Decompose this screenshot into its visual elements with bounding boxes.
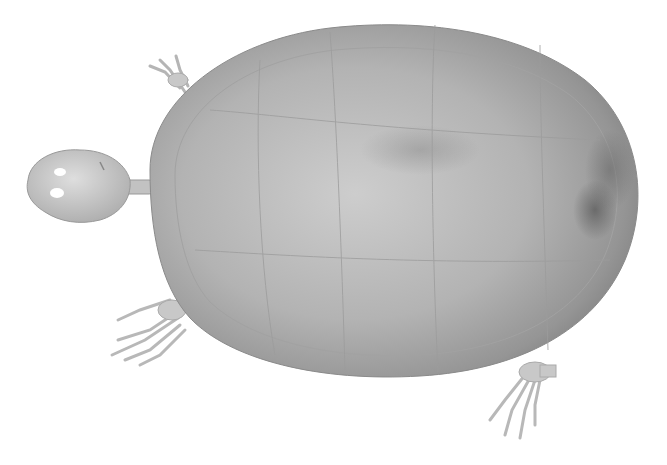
hind-limb-right bbox=[490, 362, 556, 438]
front-limb-top bbox=[150, 56, 188, 92]
turtle-skeleton-photo bbox=[0, 0, 667, 465]
carapace bbox=[150, 25, 638, 377]
skull bbox=[27, 150, 130, 223]
hind-limb-left bbox=[112, 300, 186, 365]
